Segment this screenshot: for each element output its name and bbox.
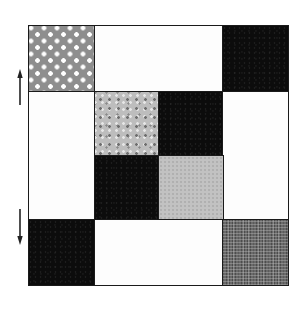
tile-light-gray — [158, 155, 224, 221]
tile-black-center-top — [158, 91, 224, 157]
tile-white-tall-left — [28, 91, 96, 221]
down-arrow-icon — [17, 209, 23, 245]
tile-black-center-bottom — [94, 155, 160, 221]
tile-black-bottom-left — [28, 219, 96, 286]
quilt-grid — [28, 25, 287, 284]
tile-dotted-gray — [28, 25, 96, 93]
tile-speckled-gray — [94, 91, 160, 157]
up-arrow-icon — [17, 69, 23, 105]
tile-white-wide-top — [94, 25, 224, 93]
tile-white-wide-bottom — [94, 219, 224, 286]
tile-black-top-right — [222, 25, 289, 93]
tile-crosshatch-gray — [222, 219, 289, 286]
tile-white-tall-right — [222, 91, 289, 221]
